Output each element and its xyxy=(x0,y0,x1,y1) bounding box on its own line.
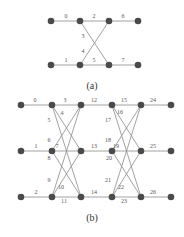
edge-label: 10 xyxy=(58,184,64,190)
caption-a: (a) xyxy=(86,80,97,92)
edge-label: 12 xyxy=(91,97,97,103)
edge-label: 25 xyxy=(150,143,156,149)
graph-node xyxy=(18,148,25,155)
edge-label: 24 xyxy=(150,97,156,103)
edge-label: 3 xyxy=(64,97,67,103)
edge-label: 4 xyxy=(61,110,64,116)
edge-label: 21 xyxy=(105,177,111,183)
graph-node xyxy=(49,102,56,109)
edge-label: 0 xyxy=(34,97,37,103)
diagram-b-edges xyxy=(21,105,171,197)
graph-node xyxy=(18,102,25,109)
graph-node xyxy=(77,62,84,69)
graph-node xyxy=(48,62,55,69)
edge-label: 3 xyxy=(82,33,85,39)
edge-label: 13 xyxy=(91,143,97,149)
graph-node xyxy=(138,194,145,201)
edge-label: 2 xyxy=(35,189,38,195)
edge-label: 22 xyxy=(118,184,124,190)
edge-label: 7 xyxy=(122,57,125,63)
edge-label: 6 xyxy=(122,13,125,19)
edge-label: 23 xyxy=(121,198,127,204)
graph-node xyxy=(135,18,142,25)
graph-node xyxy=(78,102,85,109)
graph-node xyxy=(138,102,145,109)
graph-node xyxy=(168,194,175,201)
edge-label: 4 xyxy=(82,48,85,54)
edge-label: 15 xyxy=(121,97,127,103)
graph-node xyxy=(48,18,55,25)
edge-label: 26 xyxy=(150,189,156,195)
graph-node xyxy=(135,62,142,69)
edge-label: 1 xyxy=(35,143,38,149)
edge-label: 0 xyxy=(65,13,68,19)
graph-node xyxy=(106,62,113,69)
edge-label: 14 xyxy=(91,189,97,195)
graph-node xyxy=(18,194,25,201)
edge-label: 7 xyxy=(56,143,59,149)
graph-figure: 01234567 (a) 012345678910111213141516171… xyxy=(0,0,184,237)
edge-label: 11 xyxy=(61,198,67,204)
edge-label: 5 xyxy=(93,57,96,63)
caption-b: (b) xyxy=(86,212,98,224)
edge-label: 1 xyxy=(65,57,68,63)
edge-label: 17 xyxy=(105,117,111,123)
graph-node xyxy=(109,194,116,201)
edge-label: 6 xyxy=(48,137,51,143)
edge-label: 2 xyxy=(93,13,96,19)
graph-node xyxy=(106,18,113,25)
graph-node xyxy=(109,102,116,109)
edge-label: 8 xyxy=(48,155,51,161)
edge-label: 19 xyxy=(113,143,119,149)
graph-node xyxy=(78,148,85,155)
graph-node xyxy=(77,18,84,25)
graph-node xyxy=(168,148,175,155)
edge-label: 9 xyxy=(48,177,51,183)
graph-node xyxy=(49,194,56,201)
edge-label: 20 xyxy=(106,155,112,161)
edge-label: 16 xyxy=(117,109,123,115)
diagram-a-edge-labels: 01234567 xyxy=(65,13,125,63)
graph-node xyxy=(78,194,85,201)
graph-node xyxy=(138,148,145,155)
graph-node xyxy=(168,102,175,109)
edge-label: 5 xyxy=(48,117,51,123)
graph-node xyxy=(49,148,56,155)
edge-label: 18 xyxy=(105,137,111,143)
